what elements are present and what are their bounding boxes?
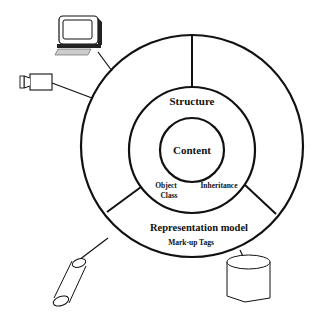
database-icon [227,255,270,302]
markup-tags-label: Mark-up Tags [168,238,214,247]
divider-bottom-left [107,187,141,212]
content-label: Content [173,144,211,156]
video-camera-icon [20,74,52,90]
tube-icon [52,257,87,308]
inheritance-label: Inheritance [200,181,238,190]
class-label: Class [160,191,177,200]
camera-connector [52,83,92,98]
terminal-connector [98,52,112,71]
divider-bottom-right [245,185,276,214]
computer-terminal-icon [55,16,102,55]
layered-model-diagram: Structure Content Object Class Inheritan… [0,0,315,322]
object-label: Object [155,181,177,190]
tube-connector [79,238,108,260]
representation-model-label: Representation model [150,222,248,233]
structure-label: Structure [169,95,214,107]
